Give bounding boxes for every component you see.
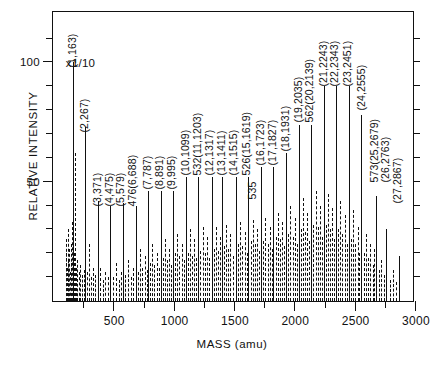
spectrum-peak [278, 213, 279, 301]
spectrum-peak [238, 244, 239, 301]
plot-area: 50100 50010001500200025003000 (1,163)(2,… [52, 11, 414, 302]
spectrum-peak [105, 272, 106, 301]
y-tick-minor [46, 38, 53, 39]
spectrum-peak [251, 241, 252, 301]
spectrum-peak [255, 244, 256, 301]
spectrum-peak [376, 196, 377, 301]
spectrum-peak [253, 220, 254, 301]
right-tick [413, 109, 420, 110]
spectrum-peak [165, 239, 166, 301]
x-axis-title: MASS (amu) [52, 338, 412, 350]
spectrum-peak [293, 237, 294, 301]
spectrum-peak [216, 227, 217, 301]
spectrum-peak [218, 251, 219, 301]
spectrum-peak [150, 263, 151, 301]
spectrum-peak [338, 229, 339, 301]
spectrum-peak [301, 229, 302, 301]
spectrum-peak [93, 268, 94, 301]
spectrum-peak [224, 246, 225, 301]
right-tick [413, 85, 420, 86]
spectrum-peak [282, 222, 283, 301]
spectrum-peak [177, 234, 178, 301]
peak-label: 476(6,688) [127, 154, 138, 206]
spectrum-peak [228, 249, 229, 301]
x-tick-label: 2000 [281, 314, 309, 328]
spectrum-peak [236, 177, 237, 301]
spectrum-peak [171, 265, 172, 301]
spectrum-peak [89, 244, 90, 301]
spectrum-peak [280, 239, 281, 301]
x-tick-minor [144, 301, 145, 308]
x-tick-label: 2500 [342, 314, 370, 328]
spectrum-peak [222, 177, 223, 301]
spectrum-peak [91, 277, 92, 301]
spectrum-peak [342, 234, 343, 301]
spectrum-peak [303, 198, 304, 301]
spectrum-peak [370, 244, 371, 301]
spectrum-peak [288, 234, 289, 301]
spectrum-peak [381, 260, 382, 301]
spectrum-peak [268, 244, 269, 301]
spectrum-peak [326, 225, 327, 301]
spectrum-peak [152, 244, 153, 301]
peak-label: (9,995) [166, 155, 177, 189]
spectrum-peak [240, 222, 241, 301]
spectrum-peak [98, 201, 99, 301]
peak-label: 535 [247, 181, 258, 199]
x-tick-minor [204, 301, 205, 308]
spectrum-peak [182, 244, 183, 301]
x-tick-minor [264, 301, 265, 308]
spectrum-peak [336, 86, 337, 301]
spectrum-peak [138, 272, 139, 301]
right-tick [413, 157, 420, 158]
spectrum-peak [175, 253, 176, 301]
peak-label: (2,267) [79, 98, 90, 132]
spectrum-peak [345, 215, 346, 301]
spectrum-peak [307, 213, 308, 301]
spectrum-peak [188, 253, 189, 301]
spectrum-peak [154, 265, 155, 301]
spectrum-peak [316, 191, 317, 301]
spectrum-peak [318, 227, 319, 301]
spectrum-peak [328, 194, 329, 301]
spectrum-peak [299, 125, 300, 302]
peak-label: (21,2243) [317, 41, 328, 87]
peak-label: (23,2451) [342, 41, 353, 87]
spectrum-peak [194, 239, 195, 301]
spectrum-peak [123, 203, 124, 301]
spectrum-peak [361, 115, 362, 301]
peak-label: (8,891) [154, 155, 165, 189]
spectrum-peak [265, 218, 266, 301]
peak-label: (16,1723) [254, 120, 265, 166]
y-tick-minor [46, 252, 53, 253]
y-tick-minor [46, 276, 53, 277]
spectrum-peak [157, 253, 158, 301]
right-tick [413, 252, 420, 253]
spectrum-peak [125, 275, 126, 301]
spectrum-peak [386, 229, 387, 301]
peak-label: 526(15,1619) [241, 111, 252, 175]
spectrum-peak [190, 229, 191, 301]
peak-label: (4,475) [103, 172, 114, 206]
spectrum-peak [390, 280, 391, 301]
spectrum-peak [364, 253, 365, 301]
spectrum-peak [358, 227, 359, 301]
spectrum-peak [103, 280, 104, 301]
spectrum-peak [136, 206, 137, 301]
spectrum-peak [169, 249, 170, 301]
spectrum-peak [233, 256, 234, 301]
spectrum-peak [290, 206, 291, 301]
spectrum-peak [207, 237, 208, 301]
spectrum-peak [276, 237, 277, 301]
peak-label: (18,1931) [280, 105, 291, 151]
peak-label: (14,1515) [227, 129, 238, 175]
spectrum-peak [108, 277, 109, 301]
y-tick-minor [46, 109, 53, 110]
spectrum-peak [142, 268, 143, 301]
y-tick-major: 50 [43, 181, 53, 182]
peak-label: (5,579) [115, 172, 126, 206]
mass-spectrum-figure: RELATIVE INTENSITY MASS (amu) 50100 5001… [0, 0, 445, 365]
x-tick-minor [385, 301, 386, 308]
peak-label: (7,787) [141, 155, 152, 189]
spectrum-peak [353, 210, 354, 301]
